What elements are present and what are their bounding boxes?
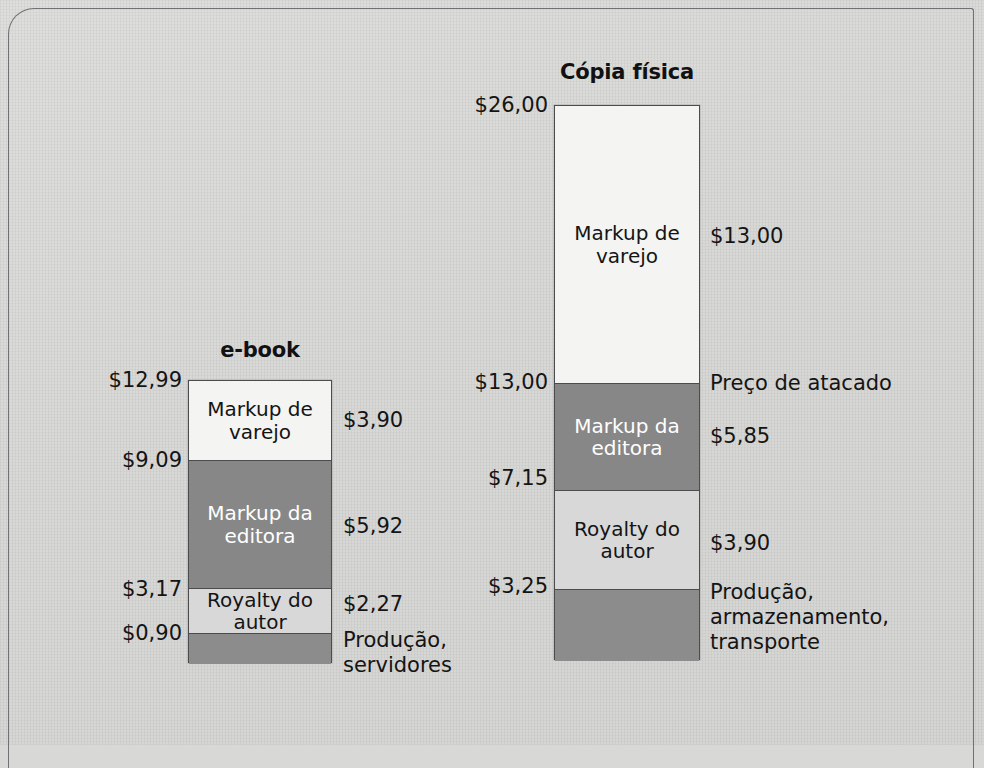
fisica-seg4-line3: transporte [710,630,820,654]
fisica-segment-producao[interactable] [555,589,699,661]
ebook-axis-tick-9-09: $9,09 [0,448,182,472]
chart-copia-fisica-title: Cópia física [554,60,700,84]
fisica-seg4-line2: armazenamento, [710,605,889,629]
ebook-value-producao-servidores: Produção,servidores [343,628,452,678]
fisica-seg3-line1: Royalty do [574,517,680,541]
fisica-axis-tick-7-15: $7,15 [366,466,548,490]
fisica-value-markup-da-editora: $5,85 [710,424,770,449]
ebook-value-markup-da-editora: $5,92 [343,514,403,539]
ebook-stacked-bar[interactable]: Markup devarejo Markup daeditora Royalty… [188,380,332,663]
ebook-segment-markup-de-varejo[interactable]: Markup devarejo [189,381,331,460]
ebook-axis-tick-0-90: $0,90 [0,621,182,645]
fisica-segment-royalty-do-autor[interactable]: Royalty doautor [555,490,699,589]
fisica-stacked-bar[interactable]: Markup devarejo Markup daeditora Royalty… [554,105,700,660]
fisica-seg2-line1: Markup da [574,414,679,438]
ebook-axis-tick-12-99: $12,99 [0,368,182,392]
fisica-axis-tick-3-25: $3,25 [366,574,548,598]
ebook-seg1-line1: Markup de [207,397,312,421]
fisica-value-markup-de-varejo: $13,00 [710,224,783,249]
ebook-value-markup-de-varejo: $3,90 [343,408,403,433]
ebook-seg4-line2: servidores [343,653,452,677]
ebook-seg3-line1: Royalty do [207,588,313,612]
fisica-segment-markup-de-varejo[interactable]: Markup devarejo [555,106,699,383]
ebook-seg2-line2: editora [224,524,295,548]
ebook-axis-tick-3-17: $3,17 [0,577,182,601]
ebook-segment-producao[interactable] [189,633,331,664]
fisica-seg1-line1: Markup de [574,221,679,245]
ebook-seg4-line1: Produção, [343,628,447,652]
fisica-value-royalty-do-autor: $3,90 [710,531,770,556]
fisica-annotation-preco-de-atacado: Preço de atacado [710,371,892,396]
fisica-seg2-line2: editora [591,436,662,460]
fisica-segment-markup-da-editora[interactable]: Markup daeditora [555,383,699,490]
ebook-seg3-line2: autor [233,610,286,633]
chart-ebook-title: e-book [188,338,332,362]
fisica-axis-tick-26-00: $26,00 [366,93,548,117]
ebook-segment-royalty-do-autor[interactable]: Royalty doautor [189,588,331,633]
ebook-seg2-line1: Markup da [207,501,312,525]
ebook-segment-markup-da-editora[interactable]: Markup daeditora [189,460,331,588]
ebook-seg1-line2: varejo [229,420,291,444]
fisica-value-producao-armazenamento-transporte: Produção,armazenamento,transporte [710,580,889,656]
fisica-axis-tick-13-00: $13,00 [366,370,548,394]
fisica-seg4-line1: Produção, [710,580,814,604]
fisica-seg3-line2: autor [600,539,653,563]
fisica-seg1-line2: varejo [596,244,658,268]
